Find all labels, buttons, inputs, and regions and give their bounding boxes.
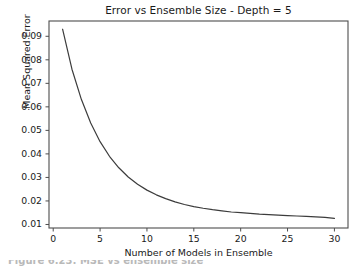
y-tick-label: 0.07 (0, 77, 42, 88)
x-tick-label: 20 (221, 233, 261, 244)
plot-background (49, 21, 348, 228)
x-tick-label: 0 (33, 233, 73, 244)
y-tick-label: 0.03 (0, 171, 42, 182)
y-tick-label: 0.06 (0, 101, 42, 112)
x-tick-label: 10 (127, 233, 167, 244)
y-tick-label: 0.04 (0, 148, 42, 159)
x-tick-label: 30 (314, 233, 354, 244)
figure-caption-clipped: Figure 6.23: MSE vs ensemble size (0, 260, 361, 266)
x-tick-label: 25 (268, 233, 308, 244)
y-tick-label: 0.05 (0, 124, 42, 135)
x-tick-label: 5 (80, 233, 120, 244)
x-tick-label: 15 (174, 233, 214, 244)
y-tick-label: 0.08 (0, 54, 42, 65)
y-tick-label: 0.09 (0, 30, 42, 41)
plot-area (0, 0, 361, 266)
figure-caption-text: Figure 6.23: MSE vs ensemble size (8, 260, 203, 266)
y-tick-label: 0.02 (0, 195, 42, 206)
figure-container: Error vs Ensemble Size - Depth = 5 Mean … (0, 0, 361, 266)
y-tick-label: 0.01 (0, 218, 42, 229)
